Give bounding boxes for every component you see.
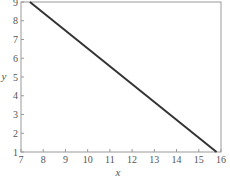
x-axis-ticks: 78910111213141516 [19,149,227,165]
y-tick-label: 9 [13,0,18,8]
y-tick-label: 6 [13,53,18,64]
y-tick-label: 4 [13,90,18,101]
x-tick-label: 8 [41,154,46,165]
line-chart: 78910111213141516 123456789 x y [0,0,230,180]
x-tick-label: 14 [172,154,182,165]
y-tick-label: 5 [13,72,18,83]
y-tick-label: 1 [13,147,18,158]
x-tick-label: 12 [127,154,137,165]
x-tick-label: 16 [216,154,226,165]
y-tick-label: 8 [13,15,18,26]
y-tick-label: 7 [13,34,18,45]
x-tick-label: 9 [63,154,68,165]
y-tick-label: 2 [13,128,18,139]
x-tick-label: 10 [83,154,93,165]
y-axis-label: y [1,70,7,82]
x-tick-label: 7 [19,154,24,165]
x-tick-label: 15 [194,154,204,165]
data-series [30,2,217,152]
y-tick-label: 3 [13,109,18,120]
x-axis-label: x [115,166,121,178]
series-line [30,2,217,152]
x-tick-label: 13 [149,154,159,165]
x-tick-label: 11 [105,154,115,165]
plot-border [21,2,221,152]
y-axis-ticks: 123456789 [13,0,24,158]
plot-frame [21,2,221,152]
